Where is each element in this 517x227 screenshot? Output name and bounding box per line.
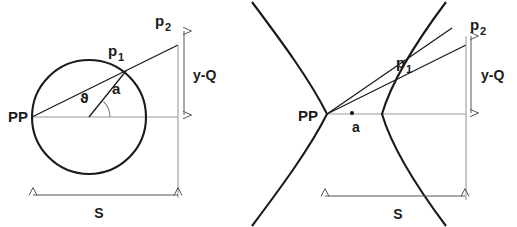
label-s-left: S [94,205,103,221]
label-p2-subscript-right: 2 [480,25,486,37]
label-s-right: S [393,206,402,222]
ray-pp-to-p2-left [32,45,178,117]
label-pp-left: PP [8,108,28,125]
circle-diagram-group: PP p 1 p 2 a ϑ y-Q S [8,12,216,221]
label-p1-right: p [396,54,405,71]
label-yq-right: y-Q [481,67,504,83]
angle-arc-theta [104,102,111,117]
label-angle-theta: ϑ [80,91,89,106]
asymptote-line-right [327,28,452,114]
label-p2-left: p [155,12,164,29]
label-p2-right: p [470,16,479,33]
hyperbola-diagram-group: PP p 1 p 2 a y-Q S [252,2,504,226]
label-pp-right: PP [298,107,318,124]
geometry-figure: PP p 1 p 2 a ϑ y-Q S [0,0,517,227]
label-radius-a-left: a [112,80,121,97]
label-p1-left: p [108,42,117,59]
radius-segment-a-left [89,71,126,117]
focus-dot-a [350,111,354,115]
diagram-canvas: PP p 1 p 2 a ϑ y-Q S [0,0,517,227]
label-p1-subscript-right: 1 [406,63,412,75]
label-yq-left: y-Q [193,67,216,83]
label-p2-subscript-left: 2 [165,21,171,33]
label-focus-a-right: a [352,119,360,135]
label-p1-subscript-left: 1 [118,51,124,63]
